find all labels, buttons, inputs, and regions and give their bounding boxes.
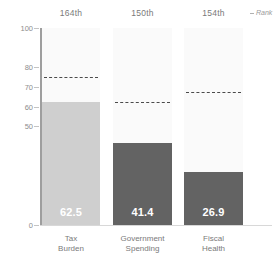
y-tick-label-60: 60 (9, 103, 33, 112)
category-label-government-spending-line2: Spending (109, 244, 176, 254)
y-tick-mark-60 (34, 107, 39, 108)
category-label-tax-burden-line2: Burden (42, 244, 100, 254)
category-label-fiscal-health-line2: Health (184, 244, 243, 254)
bar-chart: 164th 150th 154th Rank 100 80 70 60 50 0… (0, 0, 276, 256)
bar-government-spending[interactable]: 41.4 (113, 143, 172, 225)
y-tick-mark-50 (34, 126, 39, 127)
category-label-government-spending: Government Spending (109, 234, 176, 253)
y-tick-label-70: 70 (9, 83, 33, 92)
x-axis-baseline (40, 225, 272, 226)
y-tick-label-80: 80 (9, 63, 33, 72)
y-tick-mark-0 (34, 225, 39, 226)
y-tick-label-100: 100 (9, 24, 33, 33)
y-tick-mark-70 (34, 87, 39, 88)
category-label-tax-burden: Tax Burden (42, 234, 100, 253)
plot-area: 100 80 70 60 50 0 62.5 41.4 26.9 (0, 0, 276, 232)
category-label-tax-burden-line1: Tax (42, 234, 100, 244)
reference-line-fiscal-health (186, 92, 241, 93)
y-tick-label-50: 50 (9, 122, 33, 131)
category-label-fiscal-health-line1: Fiscal (184, 234, 243, 244)
bar-tax-burden[interactable]: 62.5 (42, 102, 100, 225)
category-label-fiscal-health: Fiscal Health (184, 234, 243, 253)
bar-value-government-spending: 41.4 (113, 206, 172, 218)
y-tick-label-0: 0 (9, 221, 33, 230)
reference-line-government-spending (115, 102, 170, 103)
y-tick-mark-100 (34, 28, 39, 29)
bar-fiscal-health[interactable]: 26.9 (184, 172, 243, 225)
bar-value-tax-burden: 62.5 (42, 206, 100, 218)
category-label-government-spending-line1: Government (109, 234, 176, 244)
reference-line-tax-burden (44, 77, 98, 78)
y-tick-mark-80 (34, 67, 39, 68)
bar-value-fiscal-health: 26.9 (184, 206, 243, 218)
